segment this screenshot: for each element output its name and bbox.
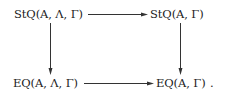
arrow-bottom — [84, 82, 154, 86]
arrows-layer — [0, 0, 227, 102]
arrow-right — [179, 23, 183, 75]
arrow-left — [49, 23, 53, 75]
arrow-top — [88, 13, 148, 17]
